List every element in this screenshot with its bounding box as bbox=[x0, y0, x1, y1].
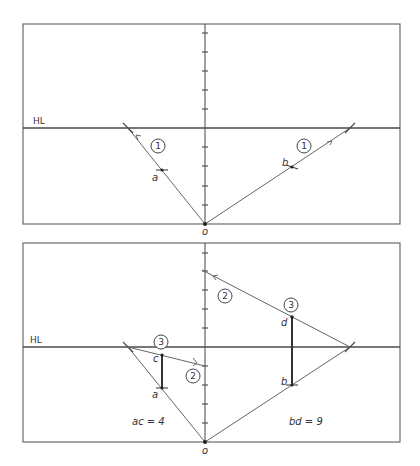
right-ray bbox=[205, 128, 350, 224]
lower-panel: HL d b bbox=[23, 243, 400, 456]
svg-text:2: 2 bbox=[190, 371, 196, 381]
label-b: b bbox=[281, 376, 287, 387]
svg-text:1: 1 bbox=[155, 141, 161, 151]
equation-ac: ac = 4 bbox=[132, 416, 165, 427]
origin-label: o bbox=[202, 445, 208, 456]
equation-bd: bd = 9 bbox=[289, 416, 323, 427]
svg-text:1: 1 bbox=[301, 141, 307, 151]
point-b bbox=[291, 384, 294, 387]
horizon-label: HL bbox=[33, 116, 45, 126]
horizon-label: HL bbox=[30, 335, 42, 345]
right-ray bbox=[205, 347, 350, 442]
label-d: d bbox=[281, 317, 288, 328]
construction-line-2-lower bbox=[128, 347, 205, 366]
svg-text:3: 3 bbox=[288, 300, 294, 310]
arrow-icon bbox=[193, 358, 197, 366]
origin-label: o bbox=[202, 226, 208, 237]
upper-frame bbox=[23, 24, 400, 224]
left-ray bbox=[128, 347, 205, 442]
point-a bbox=[161, 169, 164, 172]
point-d-right bbox=[290, 315, 294, 319]
lower-frame bbox=[23, 243, 400, 442]
upper-panel: HL a b 1 1 bbox=[23, 24, 400, 237]
label-b: b bbox=[282, 157, 288, 168]
label-c: c bbox=[153, 353, 159, 364]
svg-text:3: 3 bbox=[158, 337, 164, 347]
left-ray bbox=[128, 128, 205, 224]
point-b bbox=[291, 166, 294, 169]
perspective-diagram: HL a b 1 1 bbox=[0, 0, 420, 466]
point-c bbox=[160, 353, 163, 356]
label-a: a bbox=[152, 389, 158, 400]
origin-point bbox=[203, 440, 207, 444]
construction-line-2-upper bbox=[202, 270, 350, 347]
label-a: a bbox=[152, 172, 158, 183]
svg-text:2: 2 bbox=[222, 291, 228, 301]
point-a bbox=[161, 387, 164, 390]
